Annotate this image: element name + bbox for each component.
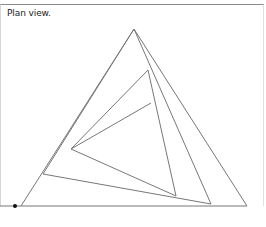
plan-view-drawing — [0, 0, 266, 227]
triangle-outer — [21, 29, 247, 206]
reference-point-dot — [13, 204, 17, 208]
nested-triangles — [21, 29, 247, 206]
